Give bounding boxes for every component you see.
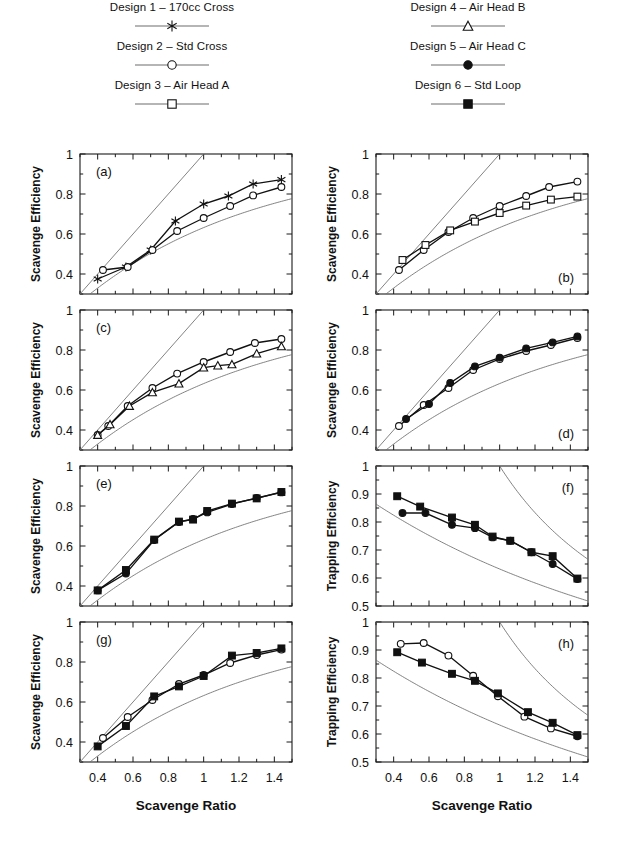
data-point: [403, 416, 410, 423]
data-point: [472, 677, 479, 684]
data-point: [496, 210, 503, 217]
chart-panel-f: 0.50.60.70.80.91Trapping Efficiency(f): [296, 460, 592, 612]
y-tick-label: 0.5: [352, 600, 369, 614]
data-point: [528, 549, 535, 556]
data-series: [396, 178, 581, 273]
data-point: [174, 228, 181, 235]
y-tick-label: 0.9: [352, 644, 369, 658]
chart-panel-d: 0.40.60.81Scavenge Efficiency(d): [296, 304, 592, 456]
data-point: [204, 508, 211, 515]
data-point: [190, 516, 197, 523]
y-axis-title: Trapping Efficiency: [325, 636, 339, 747]
legend-entry: Design 3 – Air Head A: [22, 78, 322, 115]
data-point: [549, 719, 556, 726]
data-point: [549, 339, 556, 346]
legend-sample: [318, 15, 618, 37]
data-point: [523, 193, 530, 200]
y-tick-label: 0.6: [352, 384, 369, 398]
data-point: [507, 537, 514, 544]
data-point: [94, 743, 101, 750]
y-tick-label: 0.6: [56, 696, 73, 710]
y-tick-label: 0.4: [352, 268, 369, 282]
data-point: [449, 521, 456, 528]
panel-tag: (e): [96, 476, 112, 491]
y-tick-label: 0.6: [56, 228, 73, 242]
data-point: [278, 184, 285, 191]
data-series: [100, 184, 285, 274]
data-point: [417, 503, 424, 510]
data-point: [278, 645, 285, 652]
x-tick-label: 0.8: [456, 771, 473, 785]
data-point: [253, 650, 260, 657]
x-axis-title: Scavenge Ratio: [136, 798, 237, 813]
x-tick-label: 1: [496, 771, 503, 785]
y-tick-label: 0.6: [56, 540, 73, 554]
panel-tag: (b): [558, 270, 574, 285]
data-point: [200, 215, 207, 222]
y-tick-label: 1: [362, 148, 369, 162]
x-tick-label: 0.6: [420, 771, 437, 785]
data-point: [100, 267, 107, 274]
y-tick-label: 0.6: [352, 572, 369, 586]
data-point: [495, 690, 502, 697]
legend-entry: Design 6 – Std Loop: [318, 78, 618, 115]
panel-tag: (a): [96, 164, 112, 179]
y-tick-label: 0.9: [352, 488, 369, 502]
data-point: [574, 178, 581, 185]
legend-label: Design 1 – 170cc Cross: [22, 0, 322, 15]
data-series: [396, 335, 581, 430]
data-point: [277, 342, 285, 349]
y-tick-label: 0.8: [352, 672, 369, 686]
data-point: [574, 732, 581, 739]
legend-entry: Design 5 – Air Head C: [318, 39, 618, 76]
y-tick-label: 0.8: [56, 188, 73, 202]
x-tick-label: 0.4: [89, 771, 106, 785]
y-tick-label: 1: [362, 460, 369, 474]
data-point: [149, 247, 156, 254]
legend-entry: Design 1 – 170cc Cross: [22, 0, 322, 37]
y-tick-label: 0.7: [352, 544, 369, 558]
data-point: [176, 683, 183, 690]
data-point: [447, 380, 454, 387]
legend-sample: [318, 93, 618, 115]
data-point: [394, 493, 401, 500]
data-point: [397, 640, 404, 647]
data-point: [229, 500, 236, 507]
y-tick-label: 0.8: [56, 656, 73, 670]
data-point: [227, 203, 234, 210]
y-tick-label: 0.6: [56, 384, 73, 398]
panel-tag: (d): [558, 426, 574, 441]
y-tick-label: 1: [362, 304, 369, 318]
data-point: [496, 354, 503, 361]
y-axis-title: Scavenge Efficiency: [29, 166, 43, 282]
data-point: [549, 553, 556, 560]
data-point: [449, 514, 456, 521]
x-tick-label: 1: [200, 771, 207, 785]
y-tick-label: 0.6: [352, 228, 369, 242]
data-point: [399, 510, 406, 517]
y-tick-label: 0.7: [352, 700, 369, 714]
y-tick-label: 1: [66, 616, 73, 630]
panel-tag: (c): [96, 320, 111, 335]
chart-panel-b: 0.40.60.81Scavenge Efficiency(b): [296, 148, 592, 300]
legend-sample: [22, 93, 322, 115]
y-tick-label: 1: [66, 460, 73, 474]
y-tick-label: 0.5: [352, 756, 369, 770]
y-axis-title: Scavenge Efficiency: [325, 166, 339, 282]
y-tick-label: 0.4: [56, 736, 73, 750]
data-point: [549, 561, 556, 568]
data-series: [394, 649, 581, 739]
data-point: [396, 267, 403, 274]
legend-label: Design 3 – Air Head A: [22, 78, 322, 93]
legend-label: Design 2 – Std Cross: [22, 39, 322, 54]
reference-curves: [376, 142, 588, 302]
legend-label: Design 4 – Air Head B: [318, 0, 618, 15]
legend-label: Design 5 – Air Head C: [318, 39, 618, 54]
chart-panel-e: 0.40.60.81Scavenge Efficiency(e): [0, 460, 296, 612]
y-tick-label: 1: [66, 148, 73, 162]
data-point: [472, 218, 479, 225]
x-axis-title: Scavenge Ratio: [432, 798, 533, 813]
data-point: [151, 693, 158, 700]
reference-curves: [376, 622, 588, 757]
filled-square-icon: [413, 94, 523, 114]
